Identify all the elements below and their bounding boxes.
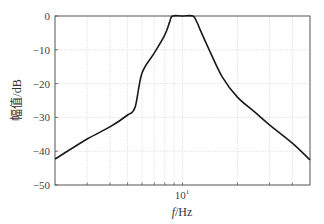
x-axis-label: f/Hz — [172, 205, 193, 219]
y-tick-label: −40 — [33, 145, 51, 157]
y-tick-label: −50 — [33, 179, 51, 191]
y-axis-label: 幅值/dB — [9, 79, 24, 120]
y-tick-label: −10 — [33, 44, 51, 56]
y-tick-label: −30 — [33, 111, 51, 123]
axis-ticks — [55, 16, 292, 185]
y-tick-labels: 0−10−20−30−40−50 — [33, 10, 51, 191]
x-tick-label-10: 101 — [175, 188, 190, 201]
y-tick-label: −20 — [33, 78, 51, 90]
grid-lines — [55, 16, 310, 185]
y-tick-label: 0 — [45, 10, 51, 22]
magnitude-chart: 0−10−20−30−40−50 101 f/Hz 幅值/dB — [0, 0, 324, 224]
